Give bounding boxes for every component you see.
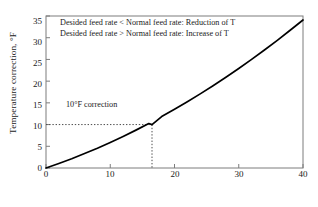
data-curve — [46, 20, 303, 168]
annotation-note-block: Desided feed rate < Normal feed rate: Re… — [60, 18, 235, 39]
note-line-1: Desided feed rate < Normal feed rate: Re… — [60, 18, 235, 29]
x-axis-ticks — [46, 164, 303, 168]
y-axis-ticks — [46, 16, 50, 168]
note-line-2: Desided feed rate > Normal feed rate: In… — [60, 29, 235, 40]
correction-callout-label: 10°F correction — [66, 100, 117, 109]
chart-figure: Temperature correction, °F 35 30 25 20 1… — [0, 0, 318, 207]
